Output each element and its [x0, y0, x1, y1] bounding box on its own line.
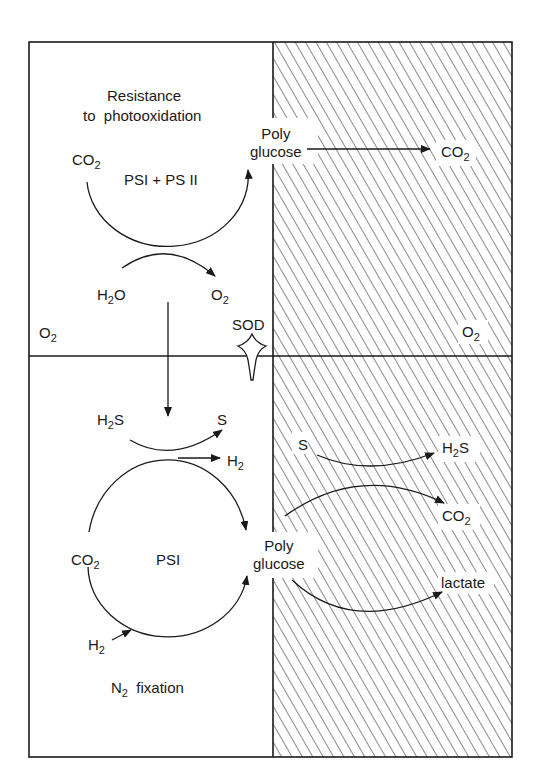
psi-upper-arc: [89, 460, 246, 532]
upper-photosystem-label: PSI + PS II: [124, 172, 198, 187]
water-splitting-arc: [122, 254, 215, 276]
hydrogen-in-label: H2: [88, 637, 105, 656]
psi-lower-arc: [88, 567, 247, 637]
upper-co2-out-label: CO2: [441, 144, 470, 163]
lactate-label: lactate: [441, 575, 485, 590]
photooxidation-label: to photooxidation: [83, 108, 201, 123]
lower-co2-label: CO2: [71, 552, 100, 571]
upper-co2-label: CO2: [72, 152, 101, 171]
upper-polyglucose-label: Poly glucose: [250, 125, 302, 161]
psi-label: PSI: [156, 552, 180, 567]
hydrogen-out-label: H2: [227, 453, 244, 472]
sod-label: SOD: [232, 317, 265, 332]
lower-polyglucose-label: Poly glucose: [253, 537, 305, 573]
sod-symbol: [238, 334, 266, 380]
h2s-label: H2S: [97, 412, 124, 431]
hydrogen-input-arrow: [112, 630, 131, 640]
sulfide-oxidation-arc: [130, 430, 222, 450]
oxygen-product-label: O2: [211, 287, 229, 306]
dark-h2s-label: H2S: [442, 440, 469, 459]
metabolism-diagram: [0, 0, 543, 778]
n2-fixation-label: N2 fixation: [111, 680, 184, 699]
oxygen-right-label: O2: [462, 324, 480, 343]
poly-text: Poly: [253, 537, 305, 555]
poly-text: Poly: [250, 125, 302, 143]
glucose-text: glucose: [250, 143, 302, 161]
water-label: H2O: [97, 287, 126, 306]
resistance-label: Resistance: [107, 88, 181, 103]
oxygen-left-label: O2: [39, 325, 57, 344]
sulfur-label: S: [217, 412, 227, 427]
dark-co2-label: CO2: [442, 508, 471, 527]
dark-sulfur-label: S: [298, 437, 308, 452]
glucose-text: glucose: [253, 555, 305, 573]
